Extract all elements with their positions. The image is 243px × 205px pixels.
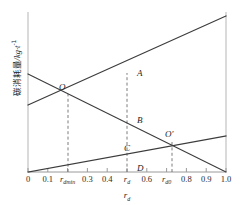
x-axis-title-sub: d — [127, 196, 131, 202]
x-tick-label-sub-5: d — [127, 179, 131, 185]
x-tick-label-main-8: 0.8 — [181, 174, 192, 184]
y-axis-label-quantity: 碳消耗量 — [12, 60, 22, 96]
x-tick-label-6: 0.6 — [141, 174, 152, 184]
x-tick-label-2: rdmin — [60, 174, 75, 185]
x-tick-label-0: 0 — [26, 174, 30, 184]
x-axis-tick-labels: 00.1rdmin0.30.4rd0.6rd00.80.91.0 — [26, 174, 231, 185]
x-tick-label-main-3: 0.3 — [82, 174, 93, 184]
y-axis-label-unit: /kg·t — [12, 46, 22, 61]
x-tick-label-main-6: 0.6 — [141, 174, 152, 184]
x-tick-label-sub-7: d0 — [165, 179, 171, 185]
point-label-B: B — [137, 115, 143, 125]
y-axis-label-exponent: -1 — [10, 40, 17, 46]
x-tick-label-main-10: 1.0 — [221, 174, 232, 184]
point-label-D: D — [136, 163, 144, 173]
x-tick-label-9: 0.9 — [201, 174, 212, 184]
x-tick-label-main-9: 0.9 — [201, 174, 212, 184]
chart-figure: 碳消耗量/kg·t-1 00.1rdmin0.30.4rd0.6rd00.80.… — [0, 0, 243, 205]
x-tick-label-1: 0.1 — [42, 174, 53, 184]
point-label-O: O — [59, 82, 66, 92]
x-tick-label-main-4: 0.4 — [102, 174, 113, 184]
point-label-C: C — [124, 143, 131, 153]
plot-svg: 00.1rdmin0.30.4rd0.6rd00.80.91.0 ABCDOO′… — [0, 0, 243, 205]
x-tick-label-main-0: 0 — [26, 174, 30, 184]
data-line-rising-steep-line — [28, 16, 226, 105]
x-tick-label-main-1: 0.1 — [42, 174, 53, 184]
x-tick-label-sub-2: dmin — [63, 179, 75, 185]
x-tick-label-7: rd0 — [162, 174, 171, 185]
x-tick-label-10: 1.0 — [221, 174, 232, 184]
x-tick-label-8: 0.8 — [181, 174, 192, 184]
x-axis-title: rd — [124, 190, 132, 202]
point-label-Oprime: O′ — [165, 129, 174, 139]
point-label-A: A — [136, 68, 143, 78]
dashed-guides — [68, 73, 172, 172]
x-tick-label-3: 0.3 — [82, 174, 93, 184]
y-axis-label: 碳消耗量/kg·t-1 — [10, 8, 22, 128]
x-tick-label-5: rd — [124, 174, 131, 185]
x-tick-label-4: 0.4 — [102, 174, 113, 184]
